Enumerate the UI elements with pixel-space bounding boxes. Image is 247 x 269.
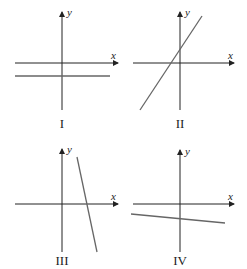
x-axis-label: x — [110, 190, 116, 202]
x-axis-label: x — [227, 49, 233, 61]
graph-panel-1: y x I — [15, 6, 118, 131]
graph-panel-4: y x IV — [131, 145, 234, 268]
x-axis-label: x — [110, 49, 116, 61]
panel-caption: III — [56, 253, 69, 268]
panel-caption: I — [60, 116, 64, 131]
line-graph — [131, 214, 225, 223]
y-axis-label: y — [184, 145, 190, 157]
y-axis-label: y — [66, 6, 72, 18]
graph-panel-2: y x II — [133, 6, 234, 131]
y-axis-label: y — [184, 6, 190, 18]
panel-caption: IV — [173, 253, 187, 268]
y-axis-label: y — [66, 143, 72, 155]
four-graphs-diagram: y x I y x II y x III y x IV — [0, 0, 247, 269]
panel-caption: II — [176, 116, 185, 131]
x-axis-label: x — [227, 190, 233, 202]
graph-panel-3: y x III — [15, 143, 118, 268]
